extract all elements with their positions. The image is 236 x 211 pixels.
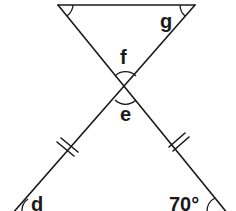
equal-side-marker-right bbox=[169, 133, 189, 151]
diagonal-line-right-to-left bbox=[12, 5, 195, 211]
geometry-diagram: g f e d 70° bbox=[0, 0, 236, 211]
equal-side-marker-left bbox=[57, 138, 78, 156]
angle-arc-top-left bbox=[67, 5, 73, 16]
angle-label-f: f bbox=[120, 46, 127, 68]
angle-arc-g bbox=[180, 5, 185, 16]
angle-label-70: 70° bbox=[169, 193, 199, 211]
angle-label-d: d bbox=[31, 193, 43, 211]
diagonal-line-left-to-right bbox=[58, 5, 228, 211]
angle-arc-70 bbox=[207, 198, 215, 211]
angle-label-g: g bbox=[160, 10, 172, 32]
angle-label-e: e bbox=[120, 103, 131, 125]
